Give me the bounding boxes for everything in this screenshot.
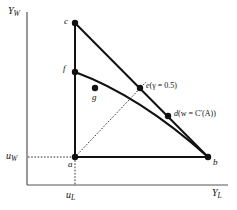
point-label-d-annotated: d(w = C′(A)) [174,110,216,118]
point-marker-c [72,20,78,26]
axes-group [27,12,228,185]
point-marker-e [137,85,143,91]
point-marker-g [92,85,98,91]
economics-diagram: YW YL uW uL c f g a b e(γ = 0.5) d(w = C… [0,0,237,210]
y-axis-tick-label-uw: uW [6,151,17,162]
y-axis-title: YW [8,6,20,17]
point-marker-d [165,113,171,119]
gamma-ray-line [75,82,146,157]
point-label-c: c [64,17,68,26]
x-axis-title-subscript: L [218,191,222,200]
point-label-e-annotated: e(γ = 0.5) [146,82,177,90]
y-axis-title-subscript: W [14,9,20,18]
point-label-b: b [213,158,218,167]
y-axis-tick-subscript: W [11,154,17,163]
diagram-canvas [0,0,237,210]
point-label-a: a [68,160,73,169]
point-label-f: f [63,64,66,73]
point-label-g: g [92,93,97,102]
point-label-d-note: (w = C′(A)) [178,109,216,118]
x-axis-tick-subscript: L [71,193,75,202]
point-marker-b [205,154,211,160]
point-marker-f [72,69,78,75]
point-label-e-note: (γ = 0.5) [150,81,177,90]
x-axis-title: YL [212,188,222,199]
x-axis-tick-label-ul: uL [66,190,75,201]
